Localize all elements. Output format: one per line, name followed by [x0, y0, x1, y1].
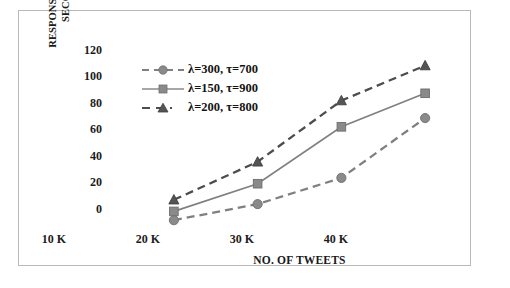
- x-tick-label-4: 40 K: [301, 232, 371, 247]
- dashed-circle-marker-icon: [141, 63, 185, 77]
- y-tick-label-80: 80: [68, 97, 102, 109]
- legend-item-label-1: λ=150, τ=900: [185, 81, 258, 96]
- y-tick-label-20: 20: [68, 176, 102, 188]
- data-point-1-3: [421, 89, 430, 98]
- x-tick-label-2: 20 K: [113, 232, 183, 247]
- dashed-triangle-marker-icon: [141, 101, 185, 115]
- y-tick-label-40: 40: [68, 150, 102, 162]
- data-point-1-2: [337, 123, 346, 132]
- chart-frame: RESPONSE TIME (IN SECONDS) 120 100 80 60…: [18, 10, 471, 266]
- y-axis-title-text: RESPONSE TIME (IN SECONDS): [46, 0, 72, 48]
- legend-item-label-0: λ=300, τ=700: [185, 62, 258, 77]
- data-point-2-3: [420, 60, 430, 69]
- data-point-0-1: [253, 200, 262, 209]
- legend: λ=300, τ=700 λ=150, τ=900 λ=200, τ=800: [141, 60, 331, 117]
- solid-square-marker-icon: [141, 82, 185, 96]
- legend-item-1: λ=150, τ=900: [141, 79, 331, 98]
- legend-item-2: λ=200, τ=800: [141, 98, 331, 117]
- legend-item-0: λ=300, τ=700: [141, 60, 331, 79]
- series-line-0: [174, 118, 425, 220]
- x-axis-title: NO. OF TWEETS: [132, 254, 467, 266]
- y-tick-label-60: 60: [68, 123, 102, 135]
- y-tick-label-0: 0: [68, 203, 102, 215]
- data-point-1-0: [170, 207, 179, 216]
- data-point-1-1: [253, 179, 262, 188]
- x-tick-label-1: 10 K: [19, 232, 89, 247]
- x-tick-label-3: 30 K: [207, 232, 277, 247]
- data-point-0-2: [337, 173, 346, 182]
- y-tick-label-100: 100: [68, 70, 102, 82]
- data-point-0-3: [421, 113, 430, 122]
- data-point-0-0: [169, 216, 178, 225]
- y-tick-label-120: 120: [68, 44, 102, 56]
- legend-item-label-2: λ=200, τ=800: [185, 100, 258, 115]
